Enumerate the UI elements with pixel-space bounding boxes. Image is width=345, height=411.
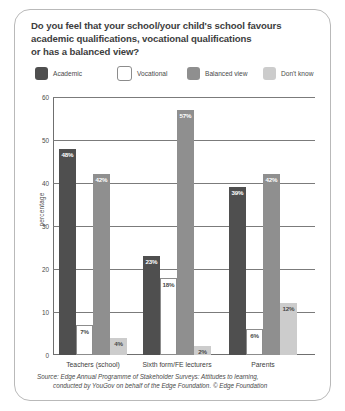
chart-panel: Do you feel that your school/your child'… bbox=[14, 9, 331, 401]
bar[interactable]: 57% bbox=[177, 110, 194, 355]
bar[interactable]: 23% bbox=[143, 256, 160, 355]
bar-value-label: 6% bbox=[247, 332, 262, 339]
source-note: Source: Edge Annual Programme of Stakeho… bbox=[37, 372, 313, 391]
bar[interactable]: 6% bbox=[246, 329, 263, 355]
y-tick-label: 40 bbox=[42, 180, 49, 187]
x-axis-group-label: Sixth form/FE lecturers bbox=[142, 361, 211, 368]
bar-value-label: 48% bbox=[59, 151, 76, 158]
y-tick-label: 30 bbox=[42, 223, 49, 230]
bar-value-label: 42% bbox=[93, 176, 110, 183]
x-axis-group-label: Teachers (school) bbox=[66, 361, 120, 368]
bar[interactable]: 7% bbox=[76, 325, 93, 355]
bar[interactable]: 2% bbox=[194, 346, 211, 355]
y-tick-label: 20 bbox=[42, 266, 49, 273]
y-tick-label: 0 bbox=[45, 352, 49, 359]
plot-area: 010203040506048%7%42%4%Teachers (school)… bbox=[53, 97, 315, 355]
bar-value-label: 7% bbox=[77, 328, 92, 335]
x-axis-group-label: Parents bbox=[251, 361, 274, 368]
y-tick-label: 50 bbox=[42, 137, 49, 144]
source-line-1: Source: Edge Annual Programme of Stakeho… bbox=[37, 373, 258, 380]
bar[interactable]: 4% bbox=[110, 338, 127, 355]
bar-value-label: 57% bbox=[177, 112, 194, 119]
bar-value-label: 4% bbox=[110, 340, 127, 347]
bar-value-label: 18% bbox=[161, 281, 176, 288]
bar-value-label: 42% bbox=[263, 176, 280, 183]
plot-wrapper: percentage 010203040506048%7%42%4%Teache… bbox=[15, 10, 332, 402]
bar[interactable]: 42% bbox=[93, 174, 110, 355]
source-line-2: conducted by YouGov on behalf of the Edg… bbox=[37, 381, 313, 390]
bar-value-label: 2% bbox=[194, 348, 211, 355]
bar[interactable]: 42% bbox=[263, 174, 280, 355]
bar-value-label: 23% bbox=[143, 258, 160, 265]
bar[interactable]: 48% bbox=[59, 149, 76, 355]
y-tick-label: 10 bbox=[42, 309, 49, 316]
bar-value-label: 12% bbox=[280, 305, 297, 312]
bar[interactable]: 12% bbox=[280, 303, 297, 355]
bar-value-label: 39% bbox=[229, 189, 246, 196]
gridline bbox=[53, 97, 315, 98]
bar[interactable]: 18% bbox=[160, 278, 177, 355]
bar[interactable]: 39% bbox=[229, 187, 246, 355]
y-tick-label: 60 bbox=[42, 94, 49, 101]
